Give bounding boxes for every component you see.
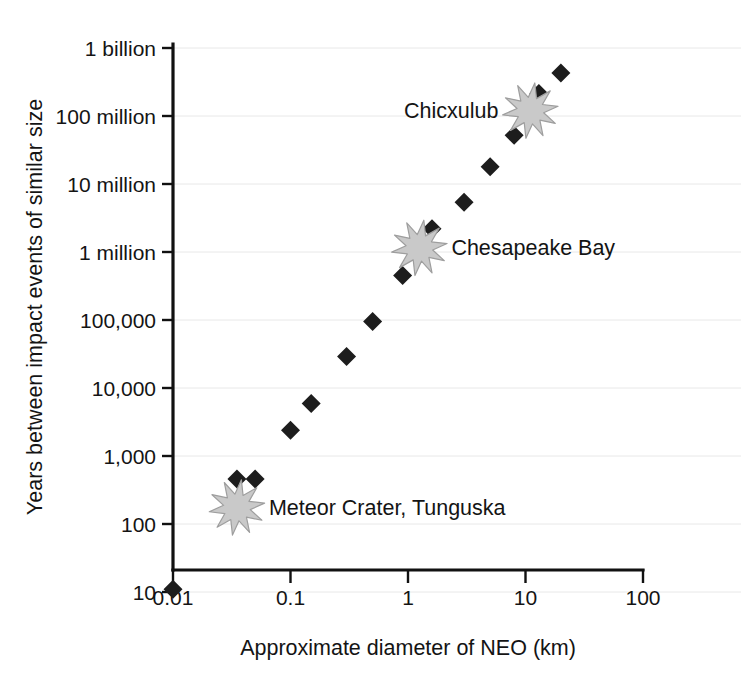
y-axis-tick-label: 1 million: [79, 241, 156, 264]
y-axis-tick-label: 100 million: [56, 105, 156, 128]
x-axis-tick-label: 0.1: [276, 586, 305, 609]
annotation-labels-group: Meteor Crater, TunguskaChesapeake BayChi…: [269, 99, 615, 520]
x-axis-tick-label: 1: [402, 586, 414, 609]
data-point-diamond: [302, 394, 321, 413]
chart-container: 101001,00010,000100,0001 million10 milli…: [0, 0, 741, 676]
annotation-starburst-icon: [392, 220, 447, 275]
data-point-diamond: [337, 347, 356, 366]
y-axis-title: Years between impact events of similar s…: [23, 99, 47, 515]
data-point-diamond: [281, 421, 300, 440]
annotation-starburst-icon: [503, 83, 558, 138]
data-point-diamond: [246, 469, 265, 488]
scatter-plot: 101001,00010,000100,0001 million10 milli…: [0, 0, 741, 676]
y-axis-tick-label: 10,000: [92, 377, 156, 400]
annotation-markers-group: [209, 83, 558, 535]
x-axis-tick-label: 10: [514, 586, 537, 609]
data-point-diamond: [393, 266, 412, 285]
data-point-diamond: [455, 193, 474, 212]
annotation-label-chesapeake-bay: Chesapeake Bay: [451, 236, 615, 260]
annotation-label-meteor-crater-tunguska: Meteor Crater, Tunguska: [269, 496, 506, 520]
x-axis-tick-labels-group: 0.010.1110100: [153, 586, 661, 609]
y-axis-tick-label: 1 billion: [85, 37, 156, 60]
y-axis-tick-label: 100,000: [80, 309, 156, 332]
y-axis-tick-label: 100: [121, 513, 156, 536]
y-axis-tick-label: 10 million: [67, 173, 156, 196]
y-axis-tick-labels-group: 101001,00010,000100,0001 million10 milli…: [56, 37, 156, 604]
data-point-diamond: [227, 469, 246, 488]
data-point-diamond: [363, 312, 382, 331]
data-point-diamond: [551, 63, 570, 82]
annotation-label-chicxulub: Chicxulub: [404, 99, 498, 123]
data-point-diamond: [481, 157, 500, 176]
x-axis-tick-label: 100: [625, 586, 660, 609]
y-axis-tick-label: 1,000: [103, 445, 156, 468]
x-axis-title: Approximate diameter of NEO (km): [240, 636, 576, 660]
